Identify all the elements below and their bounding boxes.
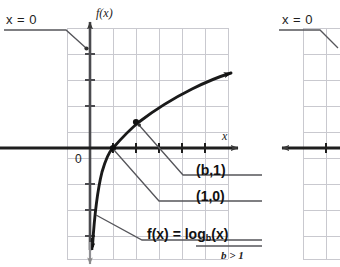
figure-canvas: x = 0 f(x) x 0 (b,1) (1,0) f(x) = logb(x… [0,0,340,267]
right-graph-x-axis [282,143,340,153]
origin-label: 0 [75,152,82,166]
left-graph-x-axis [0,143,238,153]
callout-point-1-0: (1,0) [196,188,225,204]
asymptote-label-right: x = 0 [282,12,313,27]
equation-arg: (x) [211,226,228,242]
leader-x-equals-0 [4,30,86,48]
y-axis-label: f(x) [96,6,113,21]
right-graph-grid [303,28,340,259]
x-axis-label: x [222,129,227,144]
equation-label: f(x) = logb(x) [147,226,228,243]
right-leader-x-equals-0 [279,30,338,48]
condition-label: b > 1 [221,249,244,261]
equation-lhs: f(x) = log [147,226,206,242]
asymptote-label-left: x = 0 [6,12,37,27]
callout-point-b-1: (b,1) [196,162,226,178]
point-1-0-marker [110,145,116,151]
left-graph-y-axis [85,22,95,250]
